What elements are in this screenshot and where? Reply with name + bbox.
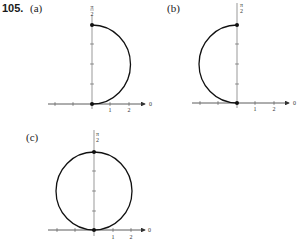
svg-text:2: 2 (96, 137, 99, 143)
svg-text:0: 0 (149, 101, 152, 107)
graph-b: π 2 1 2 0 (192, 2, 296, 112)
svg-text:1: 1 (112, 234, 115, 240)
svg-text:2: 2 (91, 11, 94, 17)
svg-text:0: 0 (293, 100, 296, 106)
svg-text:2: 2 (128, 107, 131, 113)
svg-text:2: 2 (240, 8, 243, 14)
graph-a: π 2 1 2 0 (48, 4, 152, 113)
svg-text:2: 2 (273, 106, 276, 112)
svg-text:2: 2 (130, 234, 133, 240)
svg-text:1: 1 (254, 106, 257, 112)
svg-text:0: 0 (148, 227, 151, 233)
svg-text:1: 1 (109, 107, 112, 113)
polar-graphs: π 2 1 2 0 π 2 1 2 0 π 2 1 (0, 0, 299, 245)
graph-c: π 2 1 2 0 (48, 130, 151, 240)
svg-text:π: π (90, 4, 93, 10)
